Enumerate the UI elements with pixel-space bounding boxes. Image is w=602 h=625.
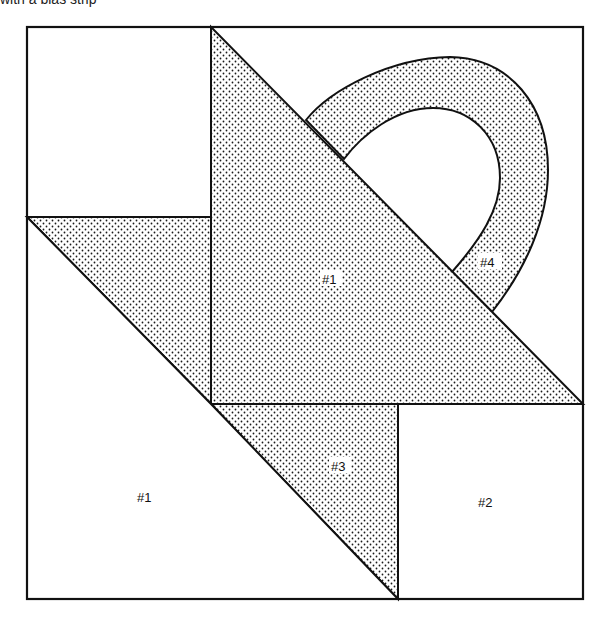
top-left-square — [27, 27, 211, 217]
label-bottom-left-piece: #1 — [137, 490, 151, 505]
quilt-block-diagram: #1 #4 #3 #1 #2 — [0, 0, 602, 625]
label-right-square: #2 — [478, 495, 492, 510]
label-handle: #4 — [480, 255, 494, 270]
label-center-piece: #1 — [322, 272, 336, 287]
label-small-triangle: #3 — [331, 459, 345, 474]
